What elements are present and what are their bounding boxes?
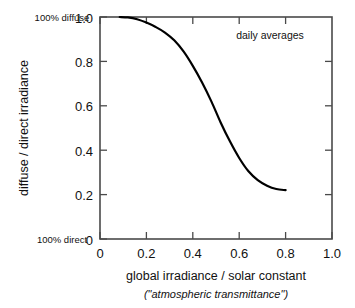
x-tick-label-02: 0.2 <box>137 246 155 261</box>
x-axis-subtitle: ("atmospheric transmittance") <box>144 288 288 300</box>
y-axis-title: diffuse / direct irradiance <box>17 60 31 196</box>
x-axis-title: global irradiance / solar constant <box>126 269 306 283</box>
x-tick-label-0: 0 <box>96 246 103 261</box>
y-tick-label-06: 0.6 <box>75 99 93 114</box>
chart-background <box>0 0 355 308</box>
annotation-daily-averages: daily averages <box>236 29 304 41</box>
x-tick-label-1: 1.0 <box>323 246 341 261</box>
chart-figure: 1.0 0.8 0.6 0.4 0.2 0 0 0.2 0.4 0.6 0.8 … <box>0 0 355 308</box>
label-100-percent-diffuse: 100% diffuse <box>35 12 90 23</box>
x-tick-label-06: 0.6 <box>230 246 248 261</box>
label-100-percent-direct: 100% direct <box>37 234 88 245</box>
y-tick-label-02: 0.2 <box>75 188 93 203</box>
y-tick-label-04: 0.4 <box>75 144 93 159</box>
x-tick-label-04: 0.4 <box>184 246 202 261</box>
x-tick-label-08: 0.8 <box>277 246 295 261</box>
y-tick-label-08: 0.8 <box>75 55 93 70</box>
chart-svg: 1.0 0.8 0.6 0.4 0.2 0 0 0.2 0.4 0.6 0.8 … <box>0 0 355 308</box>
